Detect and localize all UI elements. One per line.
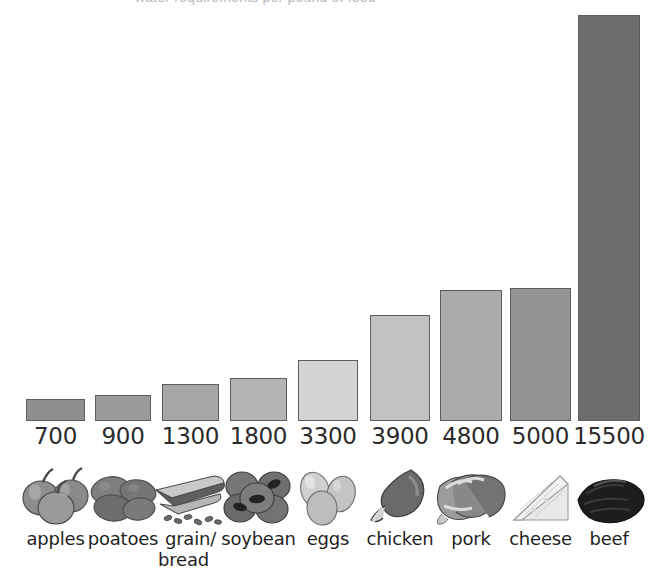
potatoes-icon	[85, 450, 161, 528]
value-label-row: 70090013001800330039004800500015500	[0, 423, 650, 451]
bar-value-label: 15500	[566, 423, 650, 449]
beef-icon	[568, 450, 650, 528]
category-label-line: beef	[562, 528, 650, 549]
bar-grain-bread	[162, 384, 219, 421]
apples-icon	[16, 450, 95, 528]
bread-icon	[152, 450, 229, 528]
chicken-icon	[360, 450, 440, 528]
bar-eggs	[298, 360, 358, 421]
plot-area	[0, 0, 650, 422]
bar-beef	[578, 15, 640, 421]
eggs-icon	[288, 450, 368, 528]
soybean-icon	[220, 450, 297, 528]
category-label-row: applespoatoesgrain/breadsoybeaneggschick…	[0, 528, 650, 584]
bar-apples	[26, 399, 85, 421]
bar-chart: water requirements per pound of food 700…	[0, 0, 650, 584]
bar-soybean	[230, 378, 287, 421]
bar-chicken	[370, 315, 430, 421]
category-label-beef: beef	[562, 528, 650, 549]
bar-pork	[440, 290, 502, 421]
bar-poatoes	[95, 395, 151, 421]
food-icon-row	[0, 450, 650, 530]
category-label-line: bread	[146, 549, 235, 570]
bar-cheese	[510, 288, 571, 421]
